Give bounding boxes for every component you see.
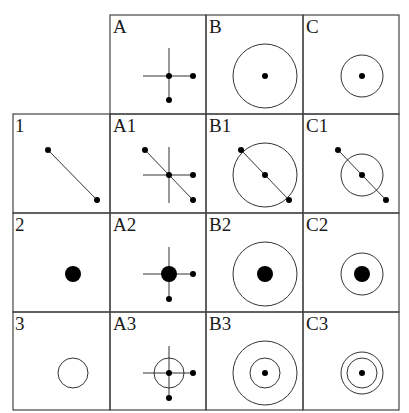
cross-glyph-A: [143, 48, 196, 103]
circle-glyph-B: [233, 44, 297, 108]
label-1: 1: [15, 115, 25, 136]
dot-icon: [94, 197, 100, 203]
combo-glyph-C2: [341, 253, 383, 295]
label-A3: A3: [113, 313, 136, 334]
empty-circle-glyph-3: [58, 358, 88, 388]
dot-icon: [359, 73, 365, 79]
combo-glyph-B2: [233, 242, 297, 306]
label-B: B: [209, 16, 222, 37]
dot-icon: [190, 197, 196, 203]
dot-icon: [45, 147, 51, 153]
dot-icon: [262, 370, 268, 376]
label-B1: B1: [209, 115, 231, 136]
dot-icon: [190, 271, 196, 277]
label-B2: B2: [209, 214, 231, 235]
dot-icon: [359, 172, 365, 178]
label-A2: A2: [113, 214, 136, 235]
dot-icon: [359, 370, 365, 376]
label-C3: C3: [306, 313, 328, 334]
combo-glyph-C1: [335, 147, 389, 203]
large-dot-icon: [161, 266, 177, 282]
dot-icon: [166, 73, 172, 79]
dot-icon: [383, 197, 389, 203]
label-C2: C2: [306, 214, 328, 235]
label-A: A: [113, 16, 127, 37]
dot-icon: [166, 296, 172, 302]
label-C: C: [306, 16, 319, 37]
dot-icon: [166, 395, 172, 401]
combo-glyph-C3: [341, 352, 383, 394]
dot-icon: [142, 147, 148, 153]
large-dot-icon: [354, 266, 370, 282]
large-dot-icon: [65, 266, 81, 282]
dot-icon: [190, 73, 196, 79]
dot-icon: [166, 370, 172, 376]
dot-icon: [190, 172, 196, 178]
cell-border-2: [13, 213, 110, 312]
dot-icon: [166, 172, 172, 178]
circle-glyph-C: [341, 55, 383, 97]
dot-icon: [286, 197, 292, 203]
combo-glyph-B3: [233, 341, 297, 405]
dot-icon: [262, 73, 268, 79]
combo-glyph-A1: [142, 147, 196, 203]
line-glyph-1: [45, 147, 100, 203]
dot-icon: [166, 97, 172, 103]
dot-icon: [335, 147, 341, 153]
filled-dot-glyph-2: [65, 266, 81, 282]
dot-icon: [190, 370, 196, 376]
large-dot-icon: [257, 266, 273, 282]
label-A1: A1: [113, 115, 136, 136]
label-C1: C1: [306, 115, 328, 136]
composition-grid: A B C 1 A1 B1 C1 2 A2 B2 C2 3 A3 B3 C3: [0, 0, 409, 413]
label-2: 2: [15, 214, 25, 235]
cell-border-3: [13, 312, 110, 410]
label-3: 3: [15, 313, 25, 334]
label-B3: B3: [209, 313, 231, 334]
combo-glyph-B1: [233, 143, 297, 207]
dot-icon: [262, 172, 268, 178]
dot-icon: [238, 147, 244, 153]
combo-glyph-A3: [143, 346, 196, 401]
combo-glyph-A2: [143, 247, 196, 302]
